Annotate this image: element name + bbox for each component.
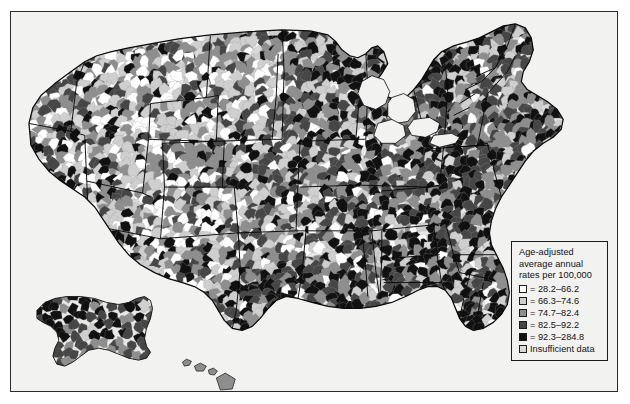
legend-entry-list: = 28.2–66.2= 66.3–74.6= 74.7–82.4= 82.5–… xyxy=(519,283,601,356)
legend-entry: = 66.3–74.6 xyxy=(519,295,601,307)
legend-entry-label: = 82.5–92.2 xyxy=(530,320,579,330)
legend-swatch-insufficient xyxy=(519,345,527,353)
legend-swatch-class-3 xyxy=(519,309,527,317)
legend-entry-label: = 92.3–284.8 xyxy=(530,332,584,342)
legend-entry: = 92.3–284.8 xyxy=(519,331,601,343)
legend-swatch-class-5 xyxy=(519,333,527,341)
legend-entry-label: Insufficient data xyxy=(530,344,595,354)
legend-swatch-class-4 xyxy=(519,321,527,329)
legend-swatch-class-2 xyxy=(519,297,527,305)
legend-swatch-class-1 xyxy=(519,285,527,293)
county-tile xyxy=(415,223,428,232)
legend-title: Age-adjusted average annual rates per 10… xyxy=(519,247,601,282)
legend-entry-label: = 74.7–82.4 xyxy=(530,308,579,318)
legend-entry: = 74.7–82.4 xyxy=(519,307,601,319)
legend-title-line-1: Age-adjusted xyxy=(519,247,601,259)
map-legend: Age-adjusted average annual rates per 10… xyxy=(511,241,608,361)
legend-title-line-3: rates per 100,000 xyxy=(519,270,601,282)
legend-entry: = 28.2–66.2 xyxy=(519,283,601,295)
legend-title-line-2: average annual xyxy=(519,259,601,271)
legend-entry-label: = 66.3–74.6 xyxy=(530,296,579,306)
figure-root: Age-adjusted average annual rates per 10… xyxy=(0,0,630,404)
legend-entry: Insufficient data xyxy=(519,343,601,355)
legend-entry: = 82.5–92.2 xyxy=(519,319,601,331)
legend-entry-label: = 28.2–66.2 xyxy=(530,284,579,294)
